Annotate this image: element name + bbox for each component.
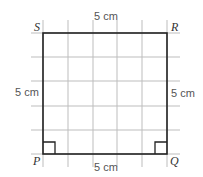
side-label-top: 5 cm — [94, 11, 118, 22]
square-diagram: S R P Q 5 cm 5 cm 5 cm 5 cm — [0, 0, 203, 177]
square-outline — [43, 33, 167, 154]
side-label-left: 5 cm — [15, 87, 39, 98]
grid-lines — [31, 20, 180, 167]
vertex-r: R — [171, 21, 178, 33]
side-label-right: 5 cm — [171, 88, 195, 99]
vertex-q: Q — [170, 155, 179, 167]
vertex-p: P — [33, 155, 40, 167]
vertex-s: S — [34, 21, 40, 33]
right-angle-marker-q — [155, 142, 167, 154]
side-label-bottom: 5 cm — [94, 162, 118, 173]
right-angle-marker-p — [43, 142, 55, 154]
